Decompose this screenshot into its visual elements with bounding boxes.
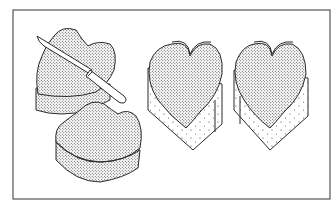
illustration: Line drawing of heart-shaped cakes: a kn… xyxy=(0,0,335,204)
upright-heart-cake-left xyxy=(148,41,222,150)
stacked-heart-cake-with-knife xyxy=(36,28,126,114)
illustration-canvas xyxy=(0,0,335,204)
upright-heart-cake-right xyxy=(234,41,308,150)
